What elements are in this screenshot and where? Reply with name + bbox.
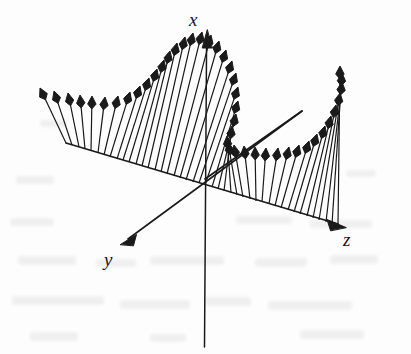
figure-container: x y z xyxy=(0,0,411,354)
vector-field-diagram xyxy=(0,0,411,354)
field-vector-shaft xyxy=(91,108,92,151)
axis-label-y: y xyxy=(104,250,112,269)
axis-label-z: z xyxy=(343,230,350,249)
field-vector-shaft xyxy=(255,159,256,201)
axis-label-x: x xyxy=(189,10,197,29)
